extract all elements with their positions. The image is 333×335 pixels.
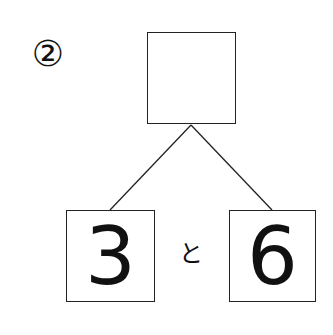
left-number-box: 3 [66, 210, 155, 302]
problem-number: ② [27, 33, 69, 75]
top-answer-box[interactable] [147, 32, 236, 124]
left-number: 3 [67, 213, 154, 301]
right-number-box: 6 [229, 210, 316, 302]
right-number: 6 [230, 213, 315, 301]
connector-to: と [176, 236, 206, 272]
